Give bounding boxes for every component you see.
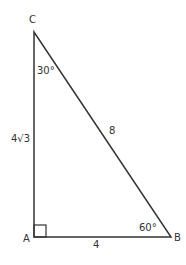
vertex-label-b: B (174, 233, 181, 243)
side-label-bc: 8 (109, 126, 115, 136)
side-label-ab: 4 (93, 240, 99, 250)
vertex-label-a: A (23, 234, 30, 244)
side-label-ac: 4√3 (11, 134, 30, 144)
triangle-abc (34, 32, 171, 237)
right-angle-marker (34, 225, 46, 237)
angle-label-c: 30° (37, 66, 55, 76)
angle-label-b: 60° (139, 223, 157, 233)
vertex-label-c: C (29, 15, 36, 25)
